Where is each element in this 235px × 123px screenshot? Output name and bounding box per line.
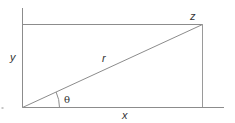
label-y: y [9, 51, 17, 63]
label-z: z [189, 10, 196, 22]
label-r: r [102, 52, 107, 64]
radius-line [23, 25, 203, 108]
label-x: x [121, 109, 128, 121]
theta-arc [56, 92, 59, 108]
polar-coordinate-diagram: y r z θ x [0, 0, 235, 123]
label-theta: θ [64, 94, 70, 105]
